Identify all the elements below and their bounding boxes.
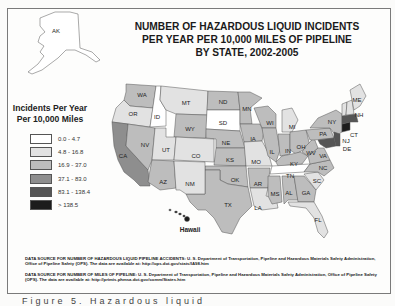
label-SC: SC — [313, 178, 322, 184]
state-AZ — [148, 160, 176, 190]
legend-swatch — [30, 200, 52, 210]
label-NM: NM — [185, 181, 194, 187]
legend-label: 16.9 - 37.0 — [58, 162, 87, 168]
legend-swatch — [30, 134, 52, 144]
label-FL: FL — [314, 217, 322, 223]
label-WA: WA — [137, 92, 146, 98]
legend-swatch — [30, 187, 52, 197]
state-HI — [169, 209, 190, 221]
label-ME: ME — [353, 97, 362, 103]
label-KS: KS — [226, 157, 234, 163]
label-NH: NH — [355, 112, 364, 118]
legend-item: 0.0 - 4.7 — [30, 132, 90, 145]
label-CO: CO — [192, 153, 201, 159]
label-DE: DE — [343, 146, 351, 152]
label-MI: MI — [289, 124, 296, 130]
state-MS — [268, 176, 282, 204]
legend-swatch — [30, 147, 52, 157]
label-TN: TN — [286, 173, 294, 179]
legend-label: 83.1 - 138.4 — [58, 189, 90, 195]
label-NJ: NJ — [342, 138, 349, 144]
label-ID: ID — [154, 114, 161, 120]
label-SD: SD — [219, 120, 228, 126]
legend-item: 83.1 - 138.4 — [30, 185, 90, 198]
legend-item: 16.9 - 37.0 — [30, 159, 90, 172]
label-AZ: AZ — [159, 179, 167, 185]
label-NY: NY — [328, 119, 336, 125]
label-AR: AR — [254, 181, 263, 187]
legend-label: 4.8 - 16.8 — [58, 149, 83, 155]
legend: 0.0 - 4.7 4.8 - 16.8 16.9 - 37.0 37.1 - … — [30, 132, 90, 212]
data-source-incidents: DATA SOURCE FOR NUMBER OF HAZARDOUS LIQU… — [25, 256, 380, 267]
legend-label: 37.1 - 83.0 — [58, 176, 87, 182]
legend-item: 4.8 - 16.8 — [30, 145, 90, 158]
legend-label: > 138.5 — [58, 202, 78, 208]
legend-title: Incidents Per Year Per 10,000 Miles — [4, 103, 96, 125]
data-source-miles: DATA SOURCE FOR NUMBER OF MILES OF PIPEL… — [25, 272, 380, 283]
label-OK: OK — [231, 177, 240, 183]
label-WY: WY — [185, 126, 195, 132]
label-PA: PA — [319, 131, 327, 137]
label-hawaii: Hawaii — [180, 226, 201, 233]
legend-label: 0.0 - 4.7 — [58, 136, 80, 142]
label-TX: TX — [224, 202, 232, 208]
label-NV: NV — [141, 142, 149, 148]
label-OH: OH — [297, 144, 306, 150]
label-LA: LA — [254, 205, 261, 211]
label-MN: MN — [242, 106, 251, 112]
label-GA: GA — [302, 190, 311, 196]
label-MT: MT — [182, 100, 191, 106]
legend-title-line-1: Incidents Per Year — [4, 103, 96, 114]
label-CT: CT — [350, 132, 358, 138]
label-IN: IN — [285, 148, 291, 154]
label-AK: AK — [52, 28, 60, 34]
legend-item: 37.1 - 83.0 — [30, 172, 90, 185]
label-VA: VA — [319, 153, 327, 159]
label-WI: WI — [266, 120, 274, 126]
state-UT — [152, 128, 176, 160]
label-MS: MS — [271, 191, 280, 197]
label-IA: IA — [250, 136, 256, 142]
label-NC: NC — [319, 165, 328, 171]
legend-swatch — [30, 160, 52, 170]
state-MD — [318, 138, 336, 148]
label-UT: UT — [162, 147, 170, 153]
label-MO: MO — [251, 159, 261, 165]
state-FL — [288, 202, 328, 238]
label-NE: NE — [222, 140, 230, 146]
label-AL: AL — [285, 190, 293, 196]
legend-title-line-2: Per 10,000 Miles — [4, 114, 96, 125]
state-AK — [28, 12, 100, 74]
legend-item: > 138.5 — [30, 198, 90, 211]
label-KY: KY — [290, 161, 298, 167]
label-IL: IL — [269, 149, 275, 155]
label-WV: WV — [306, 150, 316, 156]
legend-swatch — [30, 174, 52, 184]
figure-caption: Figure 5. Hazardous liquid — [22, 296, 205, 306]
state-NM — [174, 161, 205, 194]
label-OR: OR — [129, 111, 139, 117]
label-ND: ND — [219, 99, 228, 105]
label-CA: CA — [119, 153, 127, 159]
